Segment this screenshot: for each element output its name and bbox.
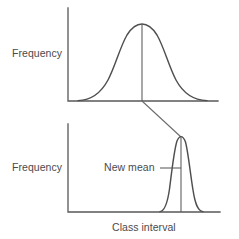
x-axis-label: Class interval [112, 221, 176, 233]
figure-canvas [0, 0, 239, 239]
panel-original-distribution [68, 8, 218, 101]
panel-connector-line [142, 101, 181, 137]
y-axis-label-top: Frequency [12, 47, 62, 59]
y-axis-label-bottom: Frequency [12, 161, 62, 173]
statistics-figure: Frequency Frequency New mean Class inter… [0, 0, 239, 239]
new-mean-annotation-label: New mean [104, 161, 155, 173]
top-chart-axes [68, 8, 218, 101]
